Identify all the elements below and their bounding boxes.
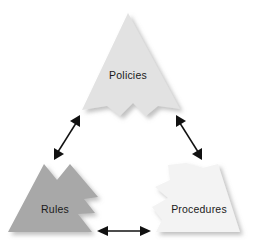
rules-shape xyxy=(8,164,98,232)
relationship-diagram: Policies Rules Procedures xyxy=(0,0,256,249)
connector-rules-policies[interactable] xyxy=(54,115,80,160)
rules-label: Rules xyxy=(41,203,69,215)
diagram-canvas: Policies Rules Procedures xyxy=(0,0,256,249)
piece-procedures[interactable]: Procedures xyxy=(152,163,240,232)
connector-rules-procedures[interactable] xyxy=(97,226,151,236)
piece-rules[interactable]: Rules xyxy=(8,164,98,232)
piece-policies[interactable]: Policies xyxy=(82,13,180,116)
rules-policies-arrow-line xyxy=(56,120,78,155)
policies-shape xyxy=(82,13,180,116)
procedures-label: Procedures xyxy=(171,203,227,215)
connector-policies-procedures[interactable] xyxy=(176,115,202,160)
policies-label: Policies xyxy=(109,69,147,81)
procedures-shape xyxy=(152,163,240,232)
policies-procedures-arrow-line xyxy=(178,120,200,155)
rules-procedures-arrowhead-left xyxy=(97,226,108,236)
rules-procedures-arrowhead-right xyxy=(140,226,151,236)
